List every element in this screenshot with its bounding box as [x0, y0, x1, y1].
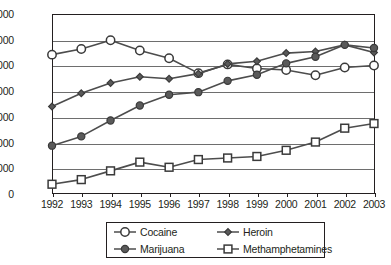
- data-point-marker: [106, 36, 114, 44]
- series-line: [52, 45, 374, 146]
- data-point-marker: [370, 61, 378, 69]
- data-point-marker: [283, 60, 290, 67]
- data-point-marker: [282, 146, 290, 154]
- series-cocaine: [48, 36, 378, 79]
- data-point-marker: [225, 229, 232, 236]
- x-axis-tick-label: 1996: [158, 198, 180, 210]
- series-line: [52, 40, 374, 75]
- x-axis-tick-label: 1992: [41, 198, 63, 210]
- y-axis-tick-label: 150,000: [0, 117, 14, 129]
- x-axis-tick-label: 1997: [187, 198, 209, 210]
- data-point-marker: [136, 158, 144, 166]
- y-axis-tick-label: 250,000: [0, 65, 14, 77]
- legend-label: Methamphetamines: [243, 243, 332, 255]
- y-axis-tick-label: 0: [0, 194, 14, 206]
- legend-item-heroin[interactable]: Heroin: [217, 224, 333, 241]
- data-point-marker: [166, 75, 173, 82]
- legend-item-marijuana[interactable]: Marijuana: [114, 241, 217, 258]
- x-axis-tick: [375, 193, 376, 197]
- data-point-marker: [312, 138, 320, 146]
- data-point-marker: [77, 45, 85, 53]
- y-axis-tick-label: 350,000: [0, 14, 14, 26]
- data-point-marker: [77, 176, 85, 184]
- series-marijuana: [48, 41, 377, 149]
- data-point-marker: [136, 46, 144, 54]
- legend-label: Heroin: [243, 226, 273, 238]
- chart-legend: CocaineHeroinMarijuanaMethamphetamines: [106, 222, 325, 258]
- y-axis-tick-label: 50,000: [0, 168, 14, 180]
- data-point-marker: [49, 103, 56, 110]
- data-point-marker: [311, 71, 319, 79]
- data-point-marker: [121, 245, 128, 252]
- data-point-marker: [165, 54, 173, 62]
- legend-label: Marijuana: [140, 243, 184, 255]
- data-point-marker: [48, 180, 56, 188]
- data-point-marker: [370, 120, 378, 128]
- legend-item-methamphetamines[interactable]: Methamphetamines: [217, 241, 333, 258]
- y-axis-tick-label: 300,000: [0, 40, 14, 52]
- series-line: [52, 45, 374, 107]
- series-line: [52, 124, 374, 185]
- data-point-marker: [107, 80, 114, 87]
- x-axis-tick-label: 1995: [129, 198, 151, 210]
- data-point-marker: [341, 124, 349, 132]
- data-point-marker: [48, 142, 55, 149]
- data-point-marker: [224, 77, 231, 84]
- legend-marker-open-circle-icon: [114, 226, 136, 238]
- data-point-marker: [107, 117, 114, 124]
- x-axis-tick-label: 2002: [334, 198, 356, 210]
- data-point-marker: [78, 133, 85, 140]
- data-point-marker: [283, 50, 290, 57]
- data-point-marker: [253, 71, 260, 78]
- data-point-marker: [224, 154, 232, 162]
- line-chart: 050,000100,000150,000200,000250,000300,0…: [0, 0, 391, 265]
- data-point-marker: [194, 156, 202, 164]
- x-axis-tick-label: 1998: [217, 198, 239, 210]
- x-axis-tick-label: 2003: [363, 198, 385, 210]
- legend-marker-open-square-icon: [217, 243, 239, 255]
- data-point-marker: [341, 41, 348, 48]
- y-axis-tick-label: 200,000: [0, 91, 14, 103]
- x-axis-tick-label: 2001: [304, 198, 326, 210]
- data-point-marker: [107, 167, 115, 175]
- legend-label: Cocaine: [140, 226, 177, 238]
- series-methamphetamines: [48, 120, 378, 188]
- data-point-marker: [312, 53, 319, 60]
- legend-marker-filled-diamond-icon: [217, 226, 239, 238]
- data-point-marker: [136, 73, 143, 80]
- data-series-layer: [52, 14, 375, 194]
- legend-item-cocaine[interactable]: Cocaine: [114, 224, 217, 241]
- data-point-marker: [370, 44, 377, 51]
- data-point-marker: [253, 153, 261, 161]
- legend-marker-filled-circle-icon: [114, 243, 136, 255]
- data-point-marker: [78, 90, 85, 97]
- data-point-marker: [165, 163, 173, 171]
- data-point-marker: [48, 50, 56, 58]
- data-point-marker: [341, 63, 349, 71]
- x-axis-tick-label: 2000: [275, 198, 297, 210]
- y-axis-tick-label: 100,000: [0, 143, 14, 155]
- data-point-marker: [254, 58, 261, 65]
- x-axis-tick-label: 1999: [246, 198, 268, 210]
- data-point-marker: [165, 91, 172, 98]
- data-point-marker: [121, 228, 129, 236]
- data-point-marker: [224, 245, 232, 253]
- data-point-marker: [195, 89, 202, 96]
- x-axis-tick-label: 1993: [70, 198, 92, 210]
- data-point-marker: [136, 102, 143, 109]
- x-axis-tick-label: 1994: [99, 198, 121, 210]
